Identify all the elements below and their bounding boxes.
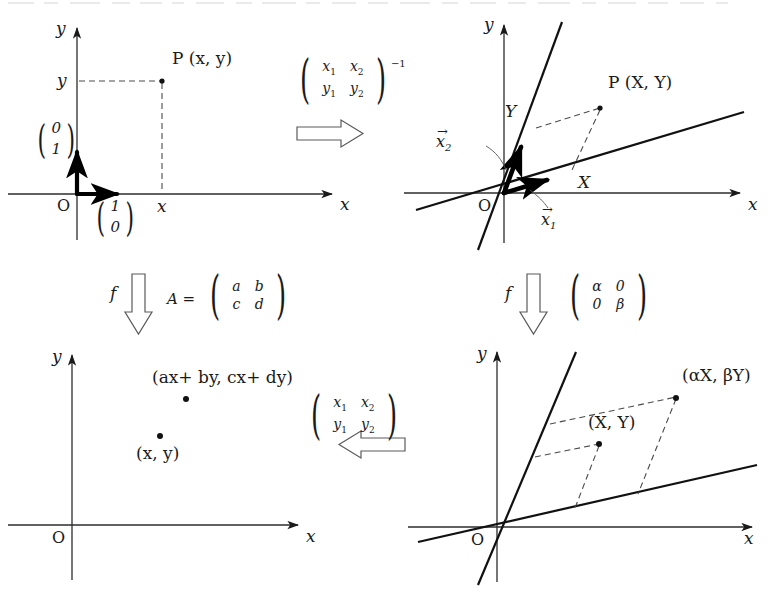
top-left-basis-vectors [77,152,117,194]
paren-right: ) [67,127,76,152]
matrix-paren-right: ) [276,280,286,310]
vector-x1-subscript: 1 [550,220,556,231]
change-of-basis-inverse-matrix: ( x1 x2 y1 y2 ) −1 [295,57,406,101]
matrix-cell-r2c2: y2 [354,415,382,437]
top-left-guide-lines [79,81,162,193]
basis-e1-bottom: 0 [109,217,123,238]
matrix-cell-r2c1: 0 [585,295,608,313]
map-f-symbol-left: f [110,283,116,303]
top-right-point-label: P (X, Y) [608,74,672,91]
matrix-cell-r1c2: x2 [354,393,382,415]
vector-arrow-accent-icon: → [542,203,553,216]
top-left-point-label: P (x, y) [172,50,232,67]
block-arrow-down-left [125,274,152,334]
top-left-y-axis-label: y [56,20,66,37]
basis-e2-bottom: 1 [50,139,64,160]
matrix-cell-r2c2: y2 [343,79,371,101]
top-left-origin-label: O [57,198,70,214]
block-arrow-down-right [520,274,547,334]
matrix-cell-r2c1: c [225,295,247,313]
bottom-left-origin-label: O [52,530,65,546]
bottom-right-point-source [596,441,602,447]
basis-e2-top: 0 [50,118,64,139]
matrix-cell-r1c1: α [585,277,608,295]
linear-map-matrix-A: ( a b c d ) [205,277,291,313]
top-right-x-axis-label: x [748,196,758,213]
matrix-cell-r1c2: x2 [343,57,371,79]
top-right-basis-lines [416,22,744,250]
top-left-tick-y-label: y [57,72,67,89]
top-right-axes [404,25,740,243]
vector-x2-label: → x2 [436,134,451,153]
diagonal-map-matrix: ( α 0 0 β ) [565,277,652,313]
matrix-paren-left: ( [300,64,310,94]
bottom-right-source-point-label: (X, Y) [588,414,635,431]
vector-x2-subscript: 2 [445,142,451,153]
bottom-left-source-point-label: (x, y) [136,445,179,462]
bottom-right-image-point-label: (αX, βY) [682,367,751,384]
basis-e1-top: 1 [109,196,123,217]
matrix-cell-r1c1: a [225,277,247,295]
matrix-paren-left: ( [210,280,220,310]
matrix-paren-right: ) [387,400,397,430]
paren-left: ( [38,127,47,152]
vector-arrow-accent-icon: → [437,125,448,138]
top-left-point-P [159,78,164,83]
vector-x1-label: → x1 [541,212,556,231]
top-right-y-axis-label: y [484,16,494,33]
top-left-x-axis-label: x [340,196,350,213]
basis-vector-e2-label: ( 0 1 ) [34,118,79,160]
top-right-Y-label: Y [505,103,516,120]
paren-left: ( [97,205,106,230]
matrix-cell-r2c1: y1 [326,415,354,437]
matrix-paren-right: ) [376,64,386,94]
matrix-cell-r1c1: x1 [326,393,354,415]
bottom-right-basis-lines [418,352,757,585]
matrix-cell-r2c2: β [609,295,632,313]
bottom-right-point-image [673,395,679,401]
bottom-left-x-axis-label: x [306,528,316,545]
bottom-left-y-axis-label: y [52,348,62,365]
matrix-exponent: −1 [391,59,406,69]
matrix-cell-r1c2: 0 [609,277,632,295]
top-right-guide-lines [536,108,600,170]
figure-canvas: y x O P (x, y) y x ( 0 1 ) ( 1 0 ) y x O… [0,0,772,594]
paren-right: ) [126,205,135,230]
basis-vector-e1-label: ( 1 0 ) [93,196,138,238]
matrix-paren-left: ( [570,280,580,310]
matrix-cell-r2c1: y1 [315,79,343,101]
bottom-left-point-source [157,433,163,439]
top-right-X-label: X [578,174,590,191]
block-arrow-right [297,120,363,147]
top-right-basis-vectors [504,147,547,193]
change-of-basis-matrix: ( x1 x2 y1 y2 ) [306,393,402,437]
matrix-paren-right: ) [637,280,647,310]
top-left-tick-x-label: x [157,198,167,215]
top-right-origin-label: O [478,198,491,214]
top-right-point-P [597,105,602,110]
bottom-right-y-axis-label: y [477,345,487,362]
bottom-left-point-image [183,396,189,402]
matrix-cell-r1c2: b [248,277,271,295]
matrix-paren-left: ( [311,400,321,430]
map-f-symbol-right: f [505,283,511,303]
matrix-A-name: A = [167,290,195,308]
bottom-right-axes [408,352,752,582]
matrix-cell-r2c2: d [248,295,271,313]
bottom-left-image-point-label: (ax+ by, cx+ dy) [152,369,293,386]
matrix-cell-r1c1: x1 [315,57,343,79]
bottom-right-x-axis-label: x [744,530,754,547]
bottom-right-origin-label: O [471,532,484,548]
